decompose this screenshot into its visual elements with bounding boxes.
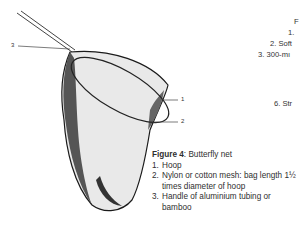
item-number: 3. (152, 192, 162, 213)
adjacent-line: 3. 300-mı (258, 49, 290, 60)
adjacent-line: 6. Str (274, 98, 292, 109)
callout-2: 2 (181, 118, 184, 124)
figure-caption: Figure 4: Butterfly net 1. Hoop 2. Nylon… (152, 150, 299, 214)
caption-item: 3. Handle of aluminium tubing or bamboo (152, 192, 299, 213)
callout-3: 3 (11, 42, 14, 48)
caption-title-bold: Figure 4 (152, 150, 184, 159)
item-text: Nylon or cotton mesh: bag length 1½ time… (162, 171, 299, 192)
item-number: 2. (152, 171, 162, 192)
caption-title: Figure 4: Butterfly net (152, 150, 299, 161)
callout-1: 1 (181, 96, 184, 102)
item-number: 1. (152, 161, 162, 172)
item-text: Hoop (162, 161, 299, 172)
caption-item: 1. Hoop (152, 161, 299, 172)
caption-item: 2. Nylon or cotton mesh: bag length 1½ t… (152, 171, 299, 192)
adjacent-line: F (294, 16, 299, 27)
adjacent-line: 1. (288, 27, 294, 38)
caption-title-rest: : Butterfly net (184, 150, 232, 159)
item-text: Handle of aluminium tubing or bamboo (162, 192, 299, 213)
adjacent-line: 2. Soft (270, 38, 292, 49)
